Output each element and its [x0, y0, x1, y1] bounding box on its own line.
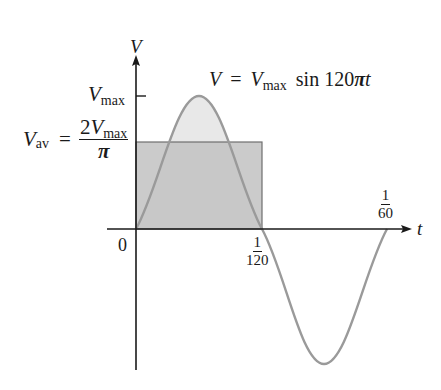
eq-lhs: V — [209, 68, 221, 90]
tick-1-60-num: 1 — [381, 188, 391, 205]
eq-equals: = — [230, 68, 241, 90]
diagram-canvas — [0, 0, 441, 390]
tick-label-1-120: 1 120 — [246, 235, 269, 268]
t-axis-label: t — [417, 219, 422, 238]
vav-sub: av — [36, 137, 49, 151]
origin-label-text: 0 — [118, 235, 127, 255]
vmax-sub: max — [101, 93, 125, 108]
vmax-base: V — [88, 82, 101, 106]
vav-num-base: V — [90, 115, 103, 139]
vav-label: Vav = 2Vmax π — [23, 117, 128, 162]
tick-1-120-fraction: 1 120 — [246, 235, 269, 268]
tick-label-1-60: 1 60 — [378, 188, 393, 221]
vav-coef: 2 — [80, 115, 91, 139]
vav-denominator: π — [98, 140, 109, 162]
vav-fraction: 2Vmax π — [79, 117, 128, 162]
v-axis-label-text: V — [130, 36, 142, 57]
origin-label: 0 — [118, 236, 127, 254]
tick-1-60-fraction: 1 60 — [378, 188, 393, 221]
sine-equation: V = Vmax sin 120πt — [209, 69, 371, 89]
eq-vmax-sub: max — [263, 78, 287, 93]
tick-1-120-den: 120 — [246, 252, 269, 268]
eq-func: sin 120 — [296, 68, 354, 90]
v-axis-label: V — [130, 37, 142, 56]
tick-1-60-den: 60 — [378, 205, 393, 221]
vav-base: V — [23, 129, 36, 150]
vmax-label: Vmax — [88, 84, 125, 105]
vav-equals: = — [59, 129, 71, 150]
tick-1-120-num: 1 — [253, 235, 263, 252]
vav-numerator: 2Vmax — [79, 117, 128, 140]
vav-num-sub: max — [103, 126, 127, 141]
t-axis-label-text: t — [417, 218, 422, 239]
eq-pi: π — [354, 68, 365, 90]
eq-vmax-base: V — [251, 68, 263, 90]
sine-average-diagram: V t 0 Vmax Vav = 2Vmax π V = Vmax sin 12… — [0, 0, 441, 390]
eq-var: t — [365, 68, 371, 90]
